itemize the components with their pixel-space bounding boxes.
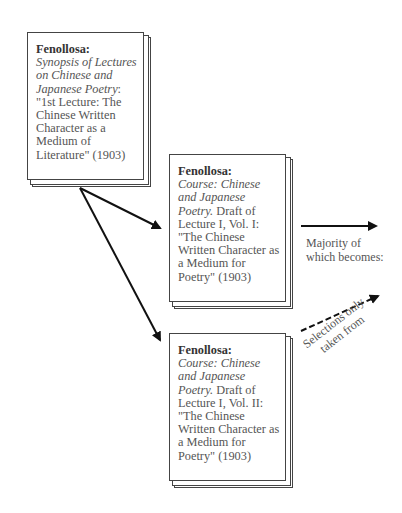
- document-stack-vol2: Fenollosa:Course: Chinese and Japanese P…: [169, 333, 288, 483]
- sheet-front: Fenollosa:Synopsis of Lectures on Chines…: [27, 32, 144, 180]
- box-text: Fenollosa:Course: Chinese and Japanese P…: [178, 344, 281, 463]
- sheet-front: Fenollosa:Course: Chinese and Japanese P…: [169, 333, 286, 481]
- box-text: Fenollosa:Course: Chinese and Japanese P…: [178, 165, 281, 284]
- box-italic-title: Synopsis of Lectures on Chinese and Japa…: [36, 55, 137, 95]
- majority-label-line1: Majority of: [306, 236, 384, 250]
- majority-label: Majority of which becomes:: [306, 236, 384, 264]
- document-stack-vol1: Fenollosa:Course: Chinese and Japanese P…: [169, 154, 288, 304]
- arrow-synopsis-to-vol2: [80, 188, 160, 340]
- document-stack-synopsis: Fenollosa:Synopsis of Lectures on Chines…: [27, 32, 146, 182]
- majority-label-line2: which becomes:: [306, 250, 384, 264]
- box-text: Fenollosa:Synopsis of Lectures on Chines…: [36, 43, 139, 162]
- arrow-synopsis-to-vol1: [80, 188, 160, 228]
- sheet-front: Fenollosa:Course: Chinese and Japanese P…: [169, 154, 286, 302]
